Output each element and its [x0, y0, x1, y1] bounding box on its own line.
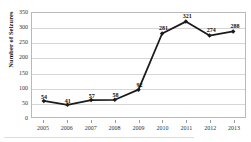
data-point-marker	[231, 29, 236, 34]
x-axis-tick-mark	[234, 120, 235, 123]
series-line	[44, 22, 233, 105]
x-axis-tick-mark	[186, 120, 187, 123]
data-point-label: 92	[137, 82, 143, 88]
x-axis-tick-label: 2011	[180, 125, 192, 131]
x-axis-tick-label: 2008	[109, 125, 121, 131]
x-axis-tick-mark	[91, 120, 92, 123]
data-point-label: 288	[231, 23, 240, 29]
y-axis-tick-label: 100	[19, 85, 28, 91]
x-axis-tick-label: 2007	[85, 125, 97, 131]
x-axis-tick-mark	[210, 120, 211, 123]
y-axis-tick-label: 350	[19, 9, 28, 15]
data-point-label: 321	[183, 13, 192, 19]
x-axis-tick-label: 2012	[204, 125, 216, 131]
chart-figure: Number of Seizures 050100150200250300350…	[0, 0, 251, 142]
x-axis-tick-mark	[115, 120, 116, 123]
y-axis-tick-label: 200	[19, 54, 28, 60]
data-point-label: 274	[207, 27, 216, 33]
x-axis-tick-mark	[139, 120, 140, 123]
x-axis-tick-mark	[43, 120, 44, 123]
plot-area: 5441575892281321274288	[31, 12, 246, 118]
x-axis-tick-label: 2005	[37, 125, 49, 131]
data-point-label: 41	[65, 98, 71, 104]
y-axis-tick-label: 300	[19, 24, 28, 30]
data-point-label: 57	[89, 93, 95, 99]
data-point-label: 281	[159, 25, 168, 31]
data-point-label: 58	[113, 92, 119, 98]
x-axis-tick-labels: 200520062007200820092010201120122013	[31, 120, 246, 134]
x-axis-tick-label: 2009	[133, 125, 145, 131]
y-axis-tick-label: 50	[22, 100, 28, 106]
y-axis-tick-label: 150	[19, 70, 28, 76]
x-axis-tick-label: 2010	[156, 125, 168, 131]
bottom-rule	[4, 137, 194, 138]
y-axis-tick-labels: 050100150200250300350	[10, 0, 30, 142]
x-axis-tick-label: 2013	[228, 125, 240, 131]
x-axis-tick-mark	[162, 120, 163, 123]
y-axis-tick-label: 250	[19, 39, 28, 45]
y-axis-tick-label: 0	[25, 115, 28, 121]
x-axis-tick-mark	[67, 120, 68, 123]
data-point-label: 54	[41, 94, 47, 100]
x-axis-tick-label: 2006	[61, 125, 73, 131]
